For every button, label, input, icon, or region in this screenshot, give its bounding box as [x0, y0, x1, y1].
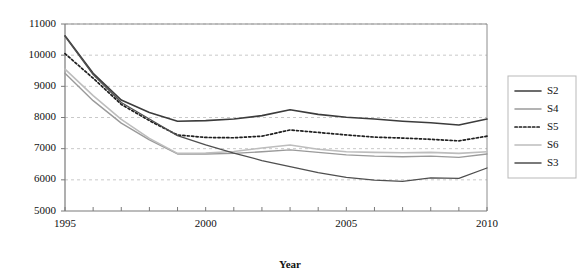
legend-label-s2: S2 — [547, 84, 559, 96]
chart-canvas: 500060007000800090001000011000 199520002… — [0, 0, 583, 279]
y-axis-tick-label: 11000 — [29, 17, 57, 29]
legend-label-s3: S3 — [547, 156, 559, 168]
y-axis-tick-label: 5000 — [34, 204, 57, 216]
y-axis-tick-label: 10000 — [29, 48, 57, 60]
legend-label-s4: S4 — [547, 102, 559, 114]
chart-background — [0, 0, 583, 279]
line-chart: 500060007000800090001000011000 199520002… — [0, 0, 583, 279]
y-axis-tick-label: 6000 — [34, 172, 57, 184]
x-axis-tick-label: 2010 — [476, 217, 499, 229]
legend-label-s6: S6 — [547, 138, 559, 150]
y-axis-tick-label: 7000 — [34, 141, 57, 153]
legend-label-s5: S5 — [547, 120, 559, 132]
x-axis-title: Year — [279, 258, 301, 270]
chart-legend: S2S4S5S6S3 — [508, 76, 576, 178]
x-axis-tick-label: 1995 — [54, 217, 77, 229]
x-axis-tick-label: 2005 — [335, 217, 358, 229]
y-axis-tick-label: 8000 — [34, 110, 57, 122]
y-axis-tick-label: 9000 — [34, 79, 57, 91]
x-axis-tick-label: 2000 — [195, 217, 218, 229]
